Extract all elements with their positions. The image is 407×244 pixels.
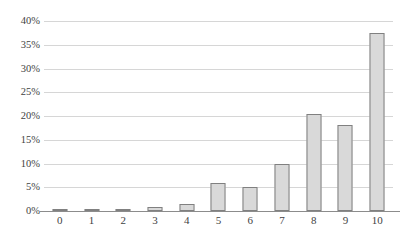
y-tick-label: 0% [0,206,40,217]
y-tick-label: 35% [0,40,40,51]
bar-slot [107,21,139,211]
y-tick-label: 25% [0,87,40,98]
x-tick-label: 9 [343,215,349,226]
bar-slot [298,21,330,211]
x-tick-label: 4 [184,215,190,226]
bar-slot [139,21,171,211]
y-tick-label: 30% [0,63,40,74]
bar[interactable] [243,187,258,211]
x-tick-label: 2 [121,215,127,226]
x-axis: 012345678910 [44,215,393,235]
bar[interactable] [211,183,226,212]
bar-slot [234,21,266,211]
bar[interactable] [306,114,321,211]
bar-slot [361,21,393,211]
x-axis-line [40,211,400,212]
bar-slot [44,21,76,211]
bar-slot [330,21,362,211]
bar-slot [76,21,108,211]
y-tick-label: 15% [0,135,40,146]
bar-slot [203,21,235,211]
x-tick-label: 8 [311,215,317,226]
y-axis: 0%5%10%15%20%25%30%35%40% [0,0,40,244]
y-tick-label: 10% [0,158,40,169]
y-tick-label: 5% [0,182,40,193]
bar[interactable] [52,209,67,211]
x-tick-label: 0 [57,215,63,226]
bar-slot [171,21,203,211]
bar[interactable] [370,33,385,211]
y-tick-label: 40% [0,16,40,27]
bar[interactable] [338,125,353,211]
bar-slot [266,21,298,211]
x-tick-label: 5 [216,215,222,226]
bar[interactable] [274,164,289,212]
bars-layer [44,21,393,211]
y-tick-label: 20% [0,111,40,122]
x-tick-label: 6 [247,215,253,226]
bar[interactable] [148,207,163,211]
bar[interactable] [116,209,131,211]
bar[interactable] [84,209,99,211]
bar-chart: 0%5%10%15%20%25%30%35%40% 012345678910 [0,0,407,244]
x-tick-label: 7 [279,215,285,226]
x-tick-label: 3 [152,215,158,226]
x-tick-label: 10 [372,215,383,226]
x-tick-label: 1 [89,215,95,226]
bar[interactable] [179,204,194,211]
